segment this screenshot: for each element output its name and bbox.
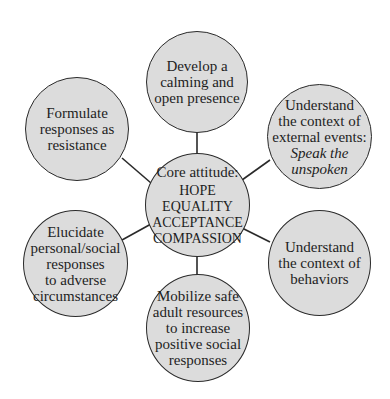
node-formulate-responses-resistance: Formulate responses as resistance: [25, 77, 129, 181]
node-text-line: Understand: [285, 239, 354, 255]
node-text-line: resistance: [47, 137, 106, 153]
node-text-line: the context of: [278, 113, 360, 129]
node-elucidate-responses: Elucidate personal/social responses to a…: [23, 210, 128, 317]
link-core-top-right: [242, 160, 270, 180]
node-develop-calming-presence: Develop a calming and open presence: [146, 31, 248, 133]
link-core-bottom-left: [122, 224, 151, 240]
node-text-line: Elucidate: [47, 224, 104, 240]
hub-and-spoke-diagram: Develop a calming and open presence Form…: [0, 0, 390, 399]
core-attitude-node: Core attitude: HOPE EQUALITY ACCEPTANCE …: [145, 153, 250, 257]
core-title: Core attitude:: [156, 164, 238, 180]
node-text-line: responses: [169, 352, 227, 368]
node-text-line: Mobilize safe: [157, 288, 239, 304]
node-text-line: responses as: [40, 121, 115, 137]
core-values: HOPE EQUALITY ACCEPTANCE COMPASSION: [152, 183, 243, 247]
node-understand-behaviors: Understand the context of behaviors: [268, 210, 371, 316]
core-value: COMPASSION: [152, 231, 243, 247]
node-text-line: adult resources: [153, 304, 243, 320]
node-text-line: calming and: [160, 74, 234, 90]
core-value: HOPE: [152, 183, 243, 199]
node-text-line: Formulate: [46, 105, 108, 121]
core-value: ACCEPTANCE: [152, 215, 243, 231]
node-text-line: Develop a: [166, 58, 227, 74]
node-text-line: behaviors: [290, 271, 348, 287]
node-text-line: responses: [46, 256, 104, 272]
node-text-line: Understand: [285, 97, 354, 113]
node-text-line: open presence: [154, 90, 239, 106]
node-text-line: positive social: [155, 336, 241, 352]
node-text-line-italic: Speak the: [291, 145, 349, 161]
link-core-top-left: [122, 158, 151, 183]
node-text-line: personal/social: [31, 240, 121, 256]
node-text-line: to adverse: [45, 272, 106, 288]
node-text-line: to increase: [166, 320, 231, 336]
node-text-line-italic: unspoken: [291, 161, 348, 177]
node-mobilize-adult-resources: Mobilize safe adult resources to increas…: [146, 274, 250, 382]
node-text-line: circumstances: [33, 288, 118, 304]
core-value: EQUALITY: [152, 199, 243, 215]
node-text-line: the context of: [278, 255, 360, 271]
link-core-bottom-right: [242, 228, 270, 242]
node-understand-external-events: Understand the context of external event…: [267, 84, 372, 189]
node-text-line: external events:: [272, 129, 367, 145]
